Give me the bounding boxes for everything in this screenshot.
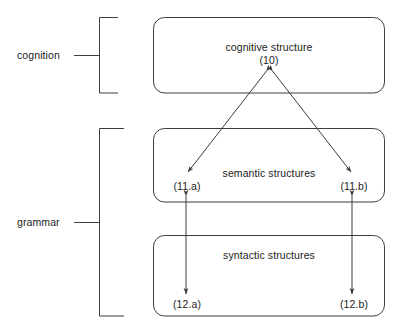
cognition-bracket [100,18,119,94]
node-11b-label: (11.b) [340,180,367,193]
diagram-canvas: cognition grammar cognitive structure (1… [0,0,400,331]
node-12b-label: (12.b) [340,298,368,311]
diagram-vector-layer [0,0,400,331]
syntactic-structures-title: syntactic structures [223,249,315,262]
arrow-10-to-11a [188,71,267,172]
cognitive-structure-title: cognitive structure [225,41,312,54]
node-12a-label: (12.a) [173,298,201,311]
arrow-10-to-11b [273,71,352,172]
semantic-structures-title: semantic structures [223,167,316,180]
cognitive-structure-ref: (10) [259,54,278,67]
grammar-label: grammar [17,216,60,229]
node-11a-label: (11.a) [173,180,200,193]
grammar-bracket [100,129,125,317]
cognition-label: cognition [17,49,60,62]
